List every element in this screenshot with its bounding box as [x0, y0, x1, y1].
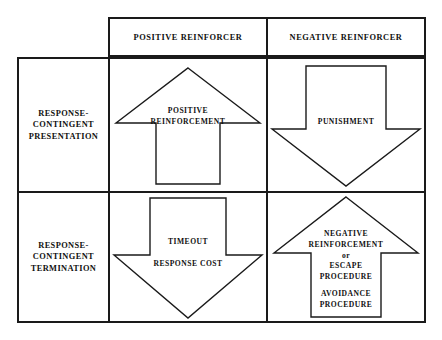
row-header-label: RESPONSE- CONTINGENT PRESENTATION: [29, 108, 99, 141]
row-header-label: RESPONSE- CONTINGENT TERMINATION: [31, 240, 97, 273]
arrow-down-icon: [110, 193, 266, 321]
cell-positive-reinforcement: POSITIVE REINFORCEMENT: [108, 57, 268, 193]
cell-punishment: PUNISHMENT: [266, 57, 426, 193]
arrow-down-icon: [268, 59, 424, 191]
row-header-response-contingent-presentation: RESPONSE- CONTINGENT PRESENTATION: [17, 57, 110, 193]
column-header-label: POSITIVE REINFORCER: [134, 33, 243, 42]
row-header-response-contingent-termination: RESPONSE- CONTINGENT TERMINATION: [17, 191, 110, 323]
column-header-positive-reinforcer: POSITIVE REINFORCER: [108, 17, 268, 57]
column-header-label: NEGATIVE REINFORCER: [290, 33, 403, 42]
contingency-matrix-diagram: POSITIVE REINFORCER NEGATIVE REINFORCER …: [0, 0, 442, 340]
cell-negative-reinforcement: NEGATIVE REINFORCEMENT or ESCAPE PROCEDU…: [266, 191, 426, 323]
cell-timeout-response-cost: TIMEOUT RESPONSE COST: [108, 191, 268, 323]
column-header-negative-reinforcer: NEGATIVE REINFORCER: [266, 17, 426, 57]
arrow-up-icon: [110, 59, 266, 191]
arrow-up-icon: [268, 193, 424, 321]
